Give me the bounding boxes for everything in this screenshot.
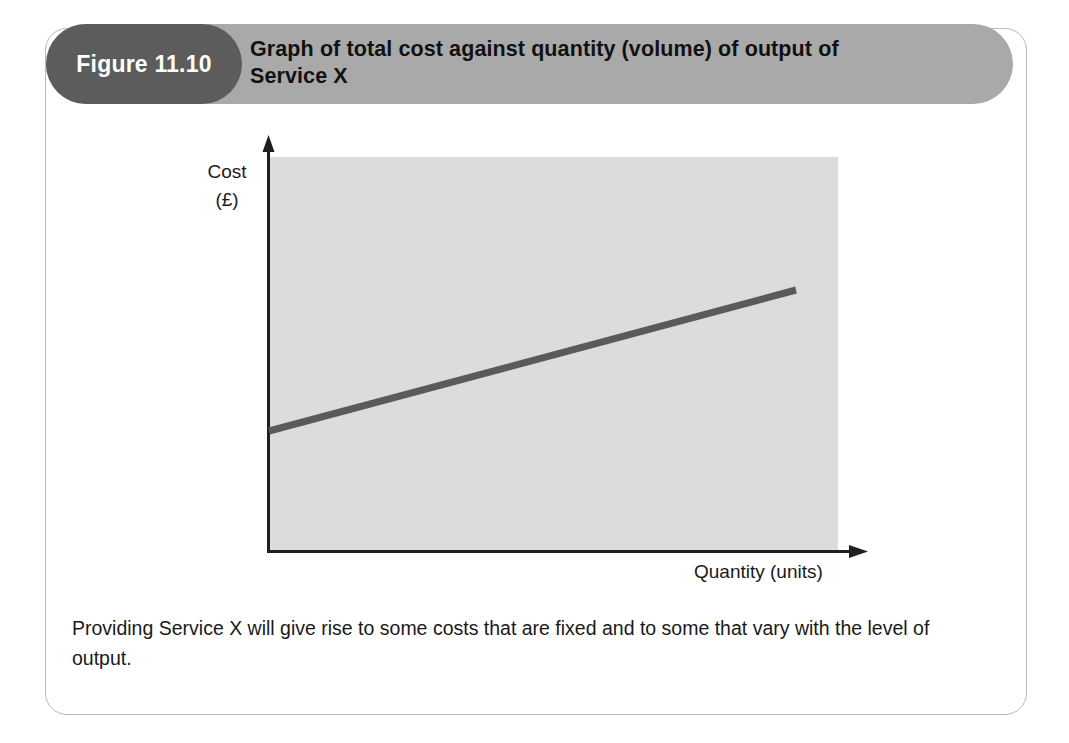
figure-caption: Providing Service X will give rise to so… — [72, 613, 987, 673]
figure-title: Graph of total cost against quantity (vo… — [250, 36, 870, 90]
figure-card — [45, 28, 1027, 715]
figure-number-pill: Figure 11.10 — [46, 24, 242, 104]
figure-number-label: Figure 11.10 — [76, 51, 211, 78]
